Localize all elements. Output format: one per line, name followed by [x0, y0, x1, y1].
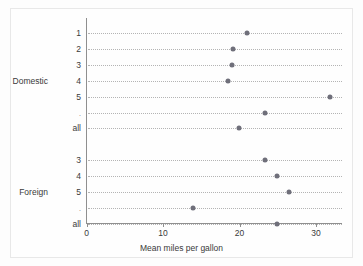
data-point [236, 126, 241, 131]
x-axis-tick [87, 223, 88, 227]
row-label-4: 4 [50, 171, 81, 181]
row-gridline [88, 33, 342, 34]
row-gridline [88, 97, 342, 98]
data-point [262, 110, 267, 115]
y-axis-line [86, 18, 87, 223]
data-point [190, 205, 195, 210]
row-gridline [88, 160, 342, 161]
data-point [245, 31, 250, 36]
row-gridline [88, 208, 342, 209]
data-point [262, 158, 267, 163]
row-label-3: 3 [50, 60, 81, 70]
row-gridline [88, 176, 342, 177]
data-point [230, 46, 235, 51]
row-gridline [88, 224, 342, 225]
data-point [229, 62, 234, 67]
row-label-2: 2 [50, 44, 81, 54]
data-point [287, 190, 292, 195]
dot-chart: 12345.all345.all DomesticForeign 0102030… [0, 0, 363, 266]
row-label-5: 5 [50, 92, 81, 102]
x-axis-tick [240, 223, 241, 227]
data-point [327, 94, 332, 99]
row-gridline [88, 65, 342, 66]
x-axis-tick-label: 0 [84, 228, 89, 238]
x-axis-tick-label: 10 [158, 228, 167, 238]
row-gridline [88, 192, 342, 193]
row-label-missing: . [50, 204, 81, 211]
row-gridline [88, 128, 342, 129]
row-label-1: 1 [50, 28, 81, 38]
row-label-all: all [50, 219, 81, 229]
group-label-domestic: Domestic [0, 76, 48, 86]
row-label-5: 5 [50, 187, 81, 197]
data-point [226, 78, 231, 83]
row-label-4: 4 [50, 76, 81, 86]
row-gridline [88, 113, 342, 114]
row-gridline [88, 81, 342, 82]
group-label-foreign: Foreign [0, 187, 48, 197]
x-axis-tick [163, 223, 164, 227]
row-label-all: all [50, 123, 81, 133]
data-point [274, 221, 279, 226]
data-point [274, 174, 279, 179]
x-axis-title: Mean miles per gallon [0, 243, 363, 253]
row-gridline [88, 49, 342, 50]
x-axis-tick [316, 223, 317, 227]
row-label-missing: . [50, 109, 81, 116]
x-axis-tick-label: 30 [311, 228, 320, 238]
x-axis-tick-label: 20 [235, 228, 244, 238]
row-label-3: 3 [50, 155, 81, 165]
